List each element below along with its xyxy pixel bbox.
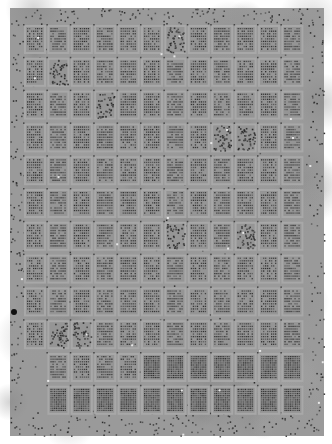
microarray-scan-image [0, 0, 332, 444]
